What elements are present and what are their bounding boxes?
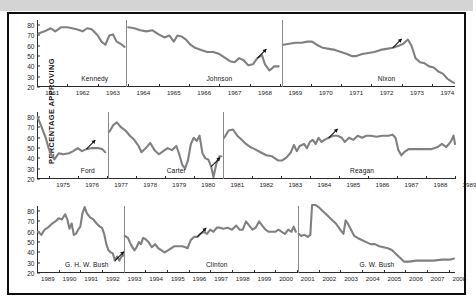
x-tick-label: 1976 (85, 181, 99, 188)
x-tick-label: 1962 (76, 89, 90, 96)
x-tick-label: 1963 (106, 89, 120, 96)
chart-row-1: 2030405060708019611962196319641965196619… (0, 20, 473, 103)
y-tick-label: 80 (27, 22, 37, 29)
x-tick-label: 1974 (440, 89, 454, 96)
x-tick-label: 1999 (258, 275, 272, 282)
y-tick-label: 60 (27, 134, 37, 141)
x-tick-label: 2006 (409, 275, 423, 282)
x-tick-label: 1989 (41, 275, 55, 282)
y-tick-label: 20 (27, 270, 37, 277)
x-tick-label: 1965 (167, 89, 181, 96)
president-label-kennedy: Kennedy (81, 75, 108, 82)
x-tick-label: 1981 (230, 181, 244, 188)
x-tick-label: 1996 (193, 275, 207, 282)
x-tick-label: 2007 (431, 275, 445, 282)
president-label-johnson: Johnson (206, 75, 232, 82)
x-tick-label: 1984 (317, 181, 331, 188)
y-tick-label: 80 (27, 114, 37, 121)
x-tick-label: 1967 (228, 89, 242, 96)
x-tick-label: 2004 (366, 275, 380, 282)
x-tick-label: 2008 (452, 275, 466, 282)
president-label-nixon: Nixon (378, 75, 396, 82)
y-tick-label: 50 (27, 145, 37, 152)
x-tick-label: 2001 (301, 275, 315, 282)
x-tick-label: 2002 (322, 275, 336, 282)
x-tick-label: 1990 (63, 275, 77, 282)
top-gray-strip (0, 0, 473, 11)
x-tick-label: 1989 (463, 181, 476, 188)
x-tick-label: 1994 (149, 275, 163, 282)
chart-row-3: 2030405060708019891990199119921993199419… (0, 206, 473, 289)
x-tick-label: 1983 (288, 181, 302, 188)
x-tick-label: 1979 (172, 181, 186, 188)
x-tick-label: 1982 (259, 181, 273, 188)
president-label-g-w-bush: G. W. Bush (360, 261, 395, 268)
x-tick-mark (455, 176, 456, 180)
x-tick-label: 1971 (349, 89, 363, 96)
x-tick-label: 1995 (171, 275, 185, 282)
y-tick-label: 40 (27, 63, 37, 70)
president-label-clinton: Clinton (206, 261, 228, 268)
president-label-reagan: Reagan (350, 167, 374, 174)
x-tick-label: 1980 (201, 181, 215, 188)
y-tick-label: 60 (27, 42, 37, 49)
x-tick-label: 1993 (128, 275, 142, 282)
y-tick-label: 20 (27, 84, 37, 91)
y-tick-label: 30 (27, 259, 37, 266)
plot-area-row-1: 2030405060708019611962196319641965196619… (37, 20, 455, 87)
y-tick-label: 70 (27, 124, 37, 131)
x-tick-label: 1973 (410, 89, 424, 96)
x-tick-label: 1964 (136, 89, 150, 96)
plot-area-row-2: 2030405060708019751976197719781979198019… (37, 112, 455, 179)
y-tick-label: 30 (27, 165, 37, 172)
x-tick-label: 1978 (143, 181, 157, 188)
y-tick-label: 70 (27, 218, 37, 225)
x-tick-label: 1975 (56, 181, 70, 188)
x-tick-label: 2000 (279, 275, 293, 282)
x-tick-label: 1977 (114, 181, 128, 188)
y-tick-label: 40 (27, 155, 37, 162)
y-tick-label: 50 (27, 239, 37, 246)
x-tick-label: 1987 (405, 181, 419, 188)
x-tick-label: 1991 (84, 275, 98, 282)
y-tick-label: 30 (27, 73, 37, 80)
president-label-ford: Ford (81, 167, 95, 174)
x-tick-label: 2003 (344, 275, 358, 282)
chart-row-2: 2030405060708019751976197719781979198019… (0, 112, 473, 195)
president-label-carter: Carter (167, 167, 186, 174)
x-tick-label: 1968 (258, 89, 272, 96)
y-tick-label: 40 (27, 249, 37, 256)
y-tick-label: 80 (27, 208, 37, 215)
x-tick-label: 1988 (434, 181, 448, 188)
x-tick-label: 1985 (346, 181, 360, 188)
x-tick-label: 1966 (197, 89, 211, 96)
annotation-group (37, 112, 455, 179)
plot-area-row-3: 2030405060708019891990199119921993199419… (37, 206, 455, 273)
x-tick-label: 1969 (288, 89, 302, 96)
x-tick-label: 1972 (380, 89, 394, 96)
y-tick-label: 70 (27, 32, 37, 39)
y-tick-label: 20 (27, 176, 37, 183)
x-tick-label: 1986 (376, 181, 390, 188)
y-tick-label: 60 (27, 228, 37, 235)
x-tick-label: 1997 (214, 275, 228, 282)
x-tick-label: 1970 (319, 89, 333, 96)
x-tick-label: 1998 (236, 275, 250, 282)
y-tick-label: 50 (27, 53, 37, 60)
president-label-g-h-w-bush: G. H. W. Bush (65, 261, 109, 268)
x-tick-label: 1961 (45, 89, 59, 96)
x-tick-label: 2005 (387, 275, 401, 282)
x-tick-label: 1992 (106, 275, 120, 282)
